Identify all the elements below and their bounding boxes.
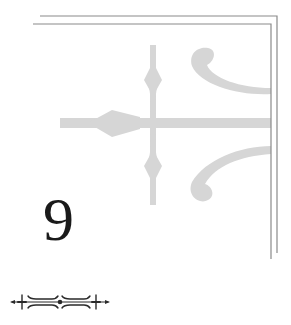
chapter-number: 9 [43,188,74,250]
chapter-decoration [0,0,291,325]
ornamental-divider-icon [10,295,110,309]
fleur-cross-watermark-icon [60,45,271,205]
chapter-opener-page: 9 [0,0,291,325]
